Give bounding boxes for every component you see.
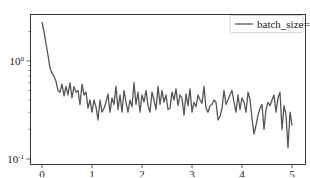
y-tick-label: 100 bbox=[10, 55, 25, 67]
legend: batch_size=64 bbox=[230, 16, 310, 33]
x-tick-label: 3 bbox=[189, 168, 195, 177]
y-axis: 10010-1 bbox=[7, 31, 30, 165]
x-tick-label: 0 bbox=[39, 168, 45, 177]
legend-label: batch_size=64 bbox=[257, 18, 310, 30]
x-tick-label: 5 bbox=[289, 168, 295, 177]
y-tick-label: 10-1 bbox=[7, 153, 24, 165]
x-axis: 012345 bbox=[39, 165, 295, 178]
plot-area-frame bbox=[31, 15, 306, 165]
x-tick-label: 2 bbox=[139, 168, 145, 177]
loss-line-chart: 10010-1 012345 batch_size=64 bbox=[0, 0, 310, 177]
x-tick-label: 4 bbox=[239, 168, 245, 177]
x-tick-label: 1 bbox=[89, 168, 95, 177]
